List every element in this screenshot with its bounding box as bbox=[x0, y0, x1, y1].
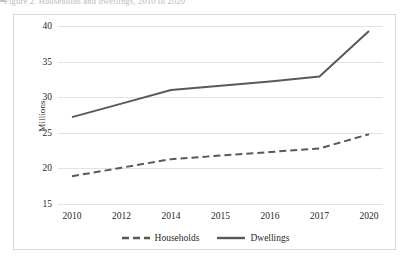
y-axis-tick-label: 15 bbox=[43, 199, 53, 209]
x-axis-tick-label: 2020 bbox=[360, 211, 379, 221]
series-line-dwellings bbox=[72, 31, 369, 117]
y-axis-tick-label: 30 bbox=[43, 92, 53, 102]
legend-entry-households[interactable]: Households bbox=[122, 233, 200, 243]
gridline bbox=[58, 204, 383, 205]
x-axis-tick-label: 2012 bbox=[112, 211, 131, 221]
x-axis-tick-label: 2014 bbox=[162, 211, 181, 221]
y-axis-tick-label: 35 bbox=[43, 57, 53, 67]
figure-caption-strip: Figure 2. Households and dwellings, 2010… bbox=[0, 0, 412, 9]
plot-area: 152025303540 201020122014201520162017202… bbox=[58, 26, 383, 204]
series-line-households bbox=[72, 134, 369, 176]
y-axis-tick-label: 40 bbox=[43, 21, 53, 31]
x-axis-tick-label: 2015 bbox=[211, 211, 230, 221]
x-axis-tick-label: 2017 bbox=[310, 211, 329, 221]
figure-caption-text: Figure 2. Households and dwellings, 2010… bbox=[4, 0, 185, 6]
legend-entry-dwellings[interactable]: Dwellings bbox=[217, 233, 289, 243]
legend-swatch-dwellings-icon bbox=[217, 233, 245, 243]
x-axis-tick-label: 2010 bbox=[63, 211, 82, 221]
legend-swatch-households-icon bbox=[122, 233, 150, 243]
y-axis-tick-label: 25 bbox=[43, 128, 53, 138]
legend-label: Households bbox=[155, 233, 200, 243]
legend-label: Dwellings bbox=[250, 233, 289, 243]
chart-legend: HouseholdsDwellings bbox=[14, 233, 397, 243]
y-axis-tick-label: 20 bbox=[43, 163, 53, 173]
chart-figure: Millions 152025303540 201020122014201520… bbox=[13, 14, 396, 250]
series-lines bbox=[58, 26, 383, 204]
x-axis-tick-label: 2016 bbox=[261, 211, 280, 221]
